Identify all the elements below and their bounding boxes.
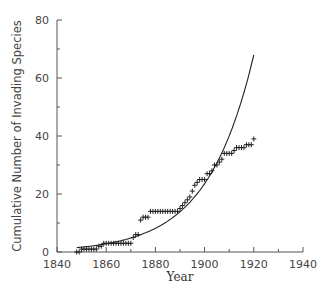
plus-marker [94, 247, 99, 252]
plus-marker [249, 142, 254, 147]
y-tick-label: 40 [35, 130, 49, 143]
plus-marker [192, 183, 197, 188]
plus-marker [185, 197, 190, 202]
plus-marker [187, 194, 192, 199]
plus-marker [229, 151, 234, 156]
plus-marker [131, 235, 136, 240]
y-tick-label: 60 [35, 72, 49, 85]
x-tick-label: 1840 [43, 258, 71, 271]
y-axis-title: Cumulative Number of Invading Species [10, 20, 24, 251]
plus-marker [138, 218, 143, 223]
plus-marker [128, 241, 133, 246]
plus-marker [232, 148, 237, 153]
plus-marker [182, 200, 187, 205]
y-tick-labels: 020406080 [35, 14, 49, 259]
y-tick-label: 20 [35, 188, 49, 201]
data-points [74, 136, 256, 254]
plus-marker [241, 145, 246, 150]
chart: 184018601880190019201940 020406080 Year … [0, 0, 331, 297]
y-tick-label: 80 [35, 14, 49, 27]
x-tick-label: 1920 [240, 258, 268, 271]
plus-marker [175, 209, 180, 214]
axes [57, 20, 303, 252]
plus-marker [146, 215, 151, 220]
x-tick-label: 1940 [289, 258, 317, 271]
plus-marker [190, 189, 195, 194]
y-tick-label: 0 [42, 246, 49, 259]
plus-marker [207, 171, 212, 176]
plus-marker [77, 250, 82, 255]
x-tick-label: 1860 [92, 258, 120, 271]
x-axis-title: Year [166, 270, 194, 284]
plus-marker [251, 136, 256, 141]
plus-marker [195, 180, 200, 185]
x-tick-label: 1880 [141, 258, 169, 271]
x-tick-label: 1900 [191, 258, 219, 271]
